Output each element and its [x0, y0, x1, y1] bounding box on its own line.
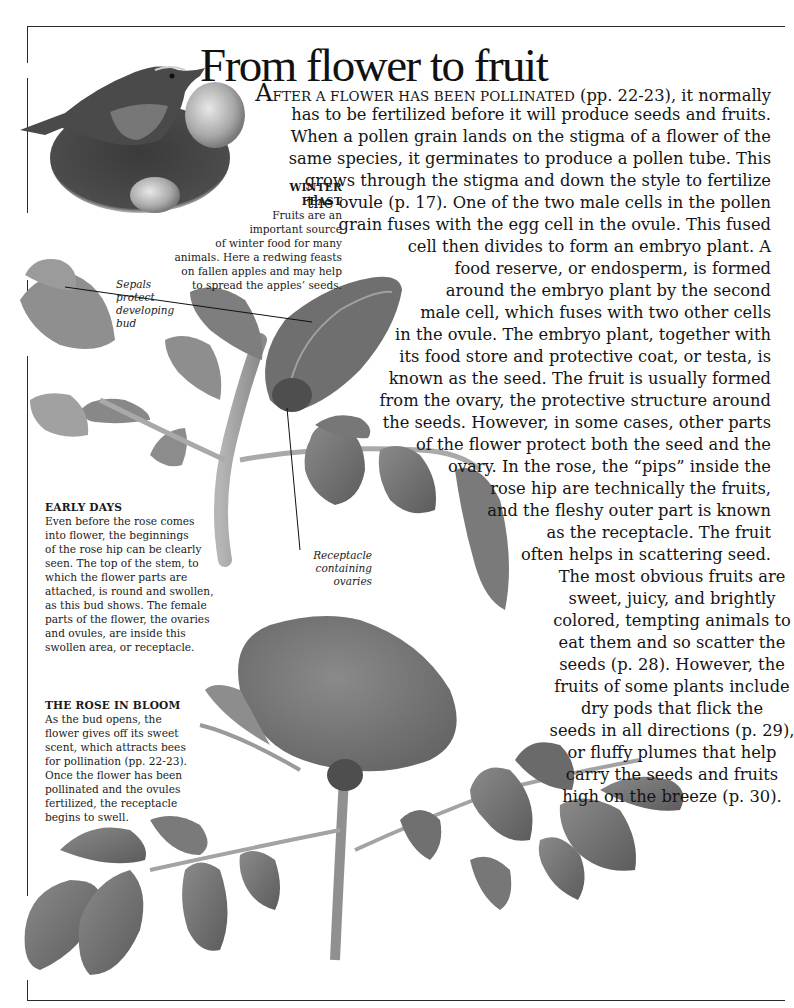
leaf [165, 336, 221, 400]
leaf [455, 468, 509, 610]
caption-title: WINTER [100, 180, 342, 194]
leaf [379, 446, 436, 513]
leaf [182, 863, 227, 951]
leaf [25, 259, 76, 290]
caption-line: of the rose hip can be clearly [45, 542, 225, 556]
label-sepals: Sepals protect developing bud [116, 278, 174, 330]
caption-early-days: EARLY DAYS Even before the rose comes in… [45, 500, 225, 654]
caption-line: swollen area, or receptacle. [45, 640, 225, 654]
label-receptacle: Receptacle containing ovaries [300, 549, 372, 588]
page-title: From flower to fruit [200, 38, 547, 92]
caption-line: important source [100, 222, 342, 236]
bird-eye [170, 74, 175, 79]
caption-title: THE ROSE IN BLOOM [45, 698, 225, 712]
leaf [470, 768, 533, 841]
stem [221, 340, 260, 560]
receptacle [272, 378, 312, 412]
caption-line: seen. The top of the stem, to [45, 556, 225, 570]
caption-line: on fallen apples and may help [100, 264, 342, 278]
caption-line: flower gives off its sweet [45, 726, 225, 740]
rose-petals [238, 616, 457, 771]
caption-title: EARLY DAYS [45, 500, 225, 514]
caption-line: Fruits are an [100, 208, 342, 222]
leaf [60, 828, 146, 864]
caption-line: As the bud opens, the [45, 712, 225, 726]
leaf [240, 851, 280, 910]
caption-winter-feast: WINTER FEAST Fruits are an important sou… [100, 180, 342, 292]
caption-line: begins to swell. [45, 810, 225, 824]
caption-line: as this bud shows. The female [45, 598, 225, 612]
caption-line: pollinated and the ovules [45, 782, 225, 796]
caption-line: Once the flower has been [45, 768, 225, 782]
caption-line: for pollination (pp. 22-23). [45, 754, 225, 768]
caption-line: of winter food for many [100, 236, 342, 250]
caption-rose-in-bloom: THE ROSE IN BLOOM As the bud opens, the … [45, 698, 225, 824]
leaf [470, 857, 511, 910]
leaf [30, 393, 88, 436]
caption-line: which the flower parts are [45, 570, 225, 584]
caption-title: FEAST [100, 194, 342, 208]
caption-line: fertilized, the receptacle [45, 796, 225, 810]
leaf [600, 777, 683, 811]
caption-line: and ovules, are inside this [45, 626, 225, 640]
receptacle-pointer-line [287, 408, 300, 550]
caption-line: parts of the flower, the ovaries [45, 612, 225, 626]
caption-line: Even before the rose comes [45, 514, 225, 528]
caption-line: animals. Here a redwing feasts [100, 250, 342, 264]
caption-line: scent, which attracts bees [45, 740, 225, 754]
caption-line: attached, is round and swollen, [45, 584, 225, 598]
receptacle [327, 759, 363, 791]
leaf [400, 810, 441, 860]
caption-line: into flower, the beginnings [45, 528, 225, 542]
